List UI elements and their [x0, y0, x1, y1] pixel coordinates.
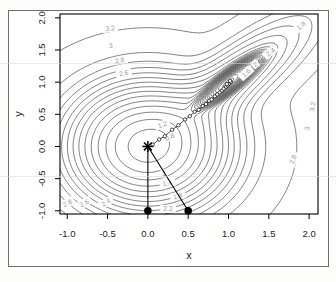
start-point-dot — [144, 207, 152, 215]
contour-label-group: 3.2 — [307, 98, 318, 115]
y-tick-label: 0.0 — [36, 140, 47, 153]
iteration-point-marker — [157, 138, 160, 141]
y-tick-label: 2.0 — [36, 11, 47, 24]
iteration-point-marker — [183, 118, 186, 121]
y-tick-label: -0.5 — [36, 170, 47, 186]
x-tick-label: 1.0 — [222, 228, 235, 239]
contour-label-group: 3.2 — [102, 23, 119, 33]
iteration-point-marker — [225, 82, 228, 85]
contour-label-group: 3 — [302, 124, 311, 133]
contour-lines — [60, 14, 318, 214]
contour-label-group: 2.4 — [97, 195, 114, 210]
y-axis-title: y — [12, 111, 24, 117]
y-tick-label: -1.0 — [36, 203, 47, 219]
iteration-point-marker — [201, 104, 204, 107]
contour-label-group: 1.8 — [169, 190, 186, 202]
contour-label-group: 2.2 — [160, 205, 176, 213]
y-tick-label: 1.5 — [36, 43, 47, 56]
y-tick-label: 1.0 — [36, 76, 47, 89]
contour-level-label: 3.2 — [105, 24, 116, 32]
figure-page: 3.232.82.61.82.421.61.20.811.41.82.22.82… — [0, 0, 336, 282]
iteration-point-marker — [170, 128, 173, 131]
plot-frame — [60, 14, 318, 214]
x-tick-label: -0.5 — [99, 228, 115, 239]
iteration-point-marker — [197, 108, 200, 111]
iteration-point-marker — [188, 115, 191, 118]
x-tick-label: 2.0 — [303, 228, 316, 239]
iteration-point-marker — [163, 134, 166, 137]
iteration-point-marker — [204, 102, 207, 105]
x-tick-label: 1.5 — [262, 228, 275, 239]
x-axis-title: x — [186, 249, 192, 261]
x-tick-label: -1.0 — [59, 228, 75, 239]
y-tick-label: 0.5 — [36, 108, 47, 121]
contour-label-group: 1.2 — [154, 118, 171, 131]
iteration-point-marker — [210, 98, 213, 101]
iteration-point-marker — [228, 79, 231, 82]
iteration-point-marker — [177, 124, 180, 127]
contour-label-group: 2.6 — [115, 68, 132, 79]
x-tick-label: 0.5 — [182, 228, 195, 239]
x-tick-label: 0.0 — [141, 228, 154, 239]
iteration-point-marker — [193, 110, 196, 113]
contour-label-group: 2.8 — [287, 151, 299, 168]
start-point-dot — [184, 207, 192, 215]
contour-label-group: 1.8 — [293, 17, 310, 33]
contour-plot: 3.232.82.61.82.421.61.20.811.41.82.22.82… — [0, 0, 336, 282]
contour-label-group: 3 — [107, 41, 115, 50]
contour-level-label: 2.2 — [163, 205, 173, 212]
